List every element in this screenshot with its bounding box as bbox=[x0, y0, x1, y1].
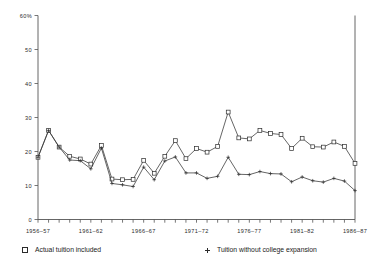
data-point-marker bbox=[226, 110, 230, 114]
data-point-marker bbox=[300, 136, 304, 140]
legend-label-tuition-without-college-expansion: Tuition without college expansion bbox=[217, 247, 317, 254]
data-point-marker bbox=[152, 171, 156, 175]
chart-container: 0102030405060% 1956–571961–621966–671971… bbox=[0, 0, 372, 273]
y-axis-tick-label: 20 bbox=[25, 149, 32, 155]
x-axis: 1956–571961–621966–671971–721976–771981–… bbox=[26, 16, 367, 234]
data-point-marker bbox=[163, 154, 167, 158]
data-point-marker bbox=[173, 139, 177, 143]
x-axis-tick-label: 1986–87 bbox=[343, 228, 367, 234]
x-axis-tick-label: 1976–77 bbox=[237, 228, 261, 234]
series-actual-tuition-included bbox=[36, 110, 357, 181]
line-chart-plot: 0102030405060% 1956–571961–621966–671971… bbox=[0, 0, 372, 245]
y-axis-tick-label: 0 bbox=[29, 217, 32, 223]
chart-legend: Actual tuition included Tuition without … bbox=[0, 243, 372, 265]
x-axis-tick-label: 1956–57 bbox=[26, 228, 50, 234]
x-axis-tick-label: 1961–62 bbox=[79, 228, 103, 234]
data-point-marker bbox=[184, 157, 188, 161]
legend-item-tuition-without-college-expansion: Tuition without college expansion bbox=[205, 247, 317, 254]
x-axis-tick-label: 1981–82 bbox=[290, 228, 314, 234]
data-point-marker bbox=[195, 147, 199, 151]
data-point-marker bbox=[68, 154, 72, 158]
data-point-marker bbox=[353, 162, 357, 166]
data-point-marker bbox=[121, 178, 125, 182]
y-axis-tick-label: 40 bbox=[25, 81, 32, 87]
data-point-marker bbox=[290, 147, 294, 151]
y-axis-tick-label: 60% bbox=[20, 13, 32, 19]
y-axis-tick-label: 30 bbox=[25, 115, 32, 121]
data-point-marker bbox=[131, 177, 135, 181]
square-marker-icon bbox=[22, 247, 28, 253]
data-point-marker bbox=[269, 132, 273, 136]
data-point-marker bbox=[258, 129, 262, 133]
data-point-marker bbox=[321, 145, 325, 149]
cross-marker-icon bbox=[205, 248, 210, 253]
data-point-marker bbox=[343, 145, 347, 149]
data-point-marker bbox=[311, 145, 315, 149]
data-point-marker bbox=[216, 145, 220, 149]
data-point-marker bbox=[237, 136, 241, 140]
legend-item-actual-tuition-included: Actual tuition included bbox=[22, 247, 101, 254]
data-point-marker bbox=[279, 133, 283, 137]
data-point-marker bbox=[247, 137, 251, 141]
x-axis-tick-label: 1966–67 bbox=[132, 228, 156, 234]
x-axis-tick-label: 1971–72 bbox=[184, 228, 208, 234]
y-axis-tick-label: 10 bbox=[25, 183, 32, 189]
y-axis: 0102030405060% bbox=[20, 13, 38, 223]
data-point-marker bbox=[205, 150, 209, 154]
y-axis-tick-label: 50 bbox=[25, 47, 32, 53]
data-point-marker bbox=[142, 158, 146, 162]
data-series-group bbox=[36, 110, 357, 192]
legend-label-actual-tuition-included: Actual tuition included bbox=[35, 247, 101, 254]
data-point-marker bbox=[332, 140, 336, 144]
